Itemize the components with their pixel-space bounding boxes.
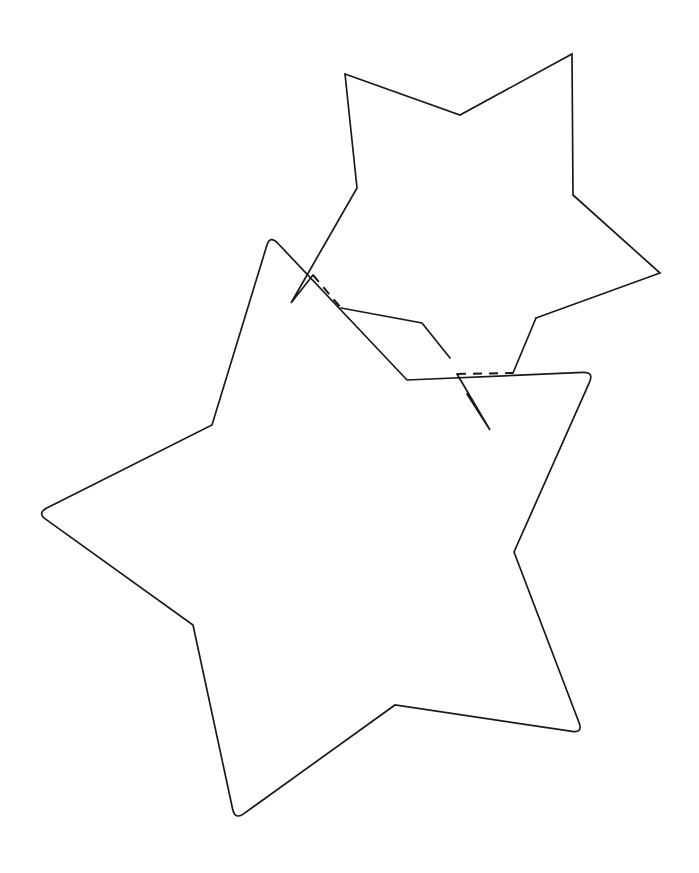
- stars-figure: Two overlapping five-pointed star outlin…: [0, 0, 699, 873]
- canvas-background: [0, 0, 699, 873]
- drawing-canvas: Two overlapping five-pointed star outlin…: [0, 0, 699, 873]
